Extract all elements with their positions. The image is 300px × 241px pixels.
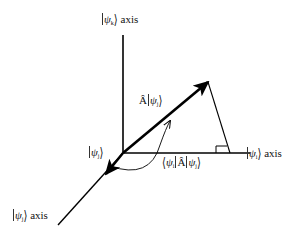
subscript-i: i: [173, 163, 175, 169]
psi-symbol: ψ: [104, 13, 111, 25]
psi-symbol: ψ: [166, 156, 173, 168]
psi-symbol: ψ: [249, 147, 256, 159]
operator-A-hat: Â: [139, 94, 147, 106]
diagram-canvas: [0, 0, 300, 241]
projection-perpendicular-line: [208, 82, 230, 153]
psi-symbol: ψ: [150, 94, 157, 106]
right-angle-marker: [216, 146, 227, 153]
psi-i-axis-label: ψi⟩ axis: [246, 147, 282, 163]
axis-word: axis: [118, 13, 138, 25]
A-psi-j-vector-arrow: [123, 82, 208, 153]
A-psi-j-label: Âψj⟩: [139, 94, 162, 110]
psi-symbol: ψ: [91, 146, 98, 158]
psi-j-vector-arrow: [106, 153, 123, 174]
psi-j-axis-label: ψj⟩ axis: [12, 209, 48, 225]
axis-word: axis: [261, 147, 281, 159]
projection-label: ⟨ψiÂψj⟩: [162, 156, 201, 172]
operator-A-hat: Â: [177, 156, 185, 168]
operator-rotation-arc: [110, 121, 170, 170]
psi-symbol: ψ: [15, 209, 22, 221]
psi-j-origin-label: ψj⟩: [88, 146, 103, 162]
axis-word: axis: [27, 209, 47, 221]
psi-k-axis-label: ψk⟩ axis: [101, 13, 138, 29]
